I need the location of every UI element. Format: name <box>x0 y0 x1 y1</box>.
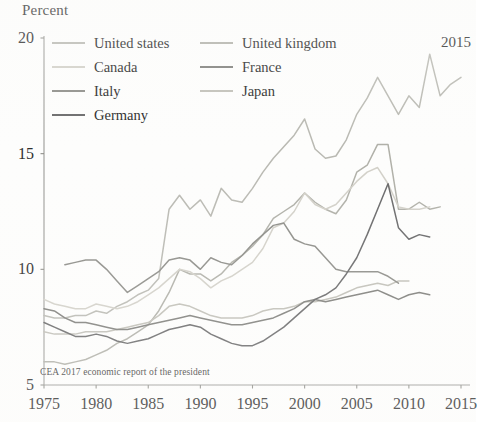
legend-swatch-icon <box>200 42 233 44</box>
legend-item-united-states: United states <box>52 31 169 55</box>
legend-swatch-icon <box>200 90 233 92</box>
legend-label: United kingdom <box>242 36 337 51</box>
legend-label: Germany <box>94 108 148 123</box>
legend-label: Canada <box>94 60 137 75</box>
legend-item-canada: Canada <box>52 55 169 79</box>
legend-swatch-icon <box>52 90 85 92</box>
source-note: CEA 2017 economic report of the presiden… <box>40 367 210 377</box>
legend-label: France <box>242 60 281 75</box>
legend-label: Japan <box>242 84 275 99</box>
legend-item-united-kingdom: United kingdom <box>200 31 337 55</box>
series-line-canada <box>44 168 430 309</box>
legend-swatch-icon <box>52 42 85 44</box>
legend-item-france: France <box>200 55 337 79</box>
legend-swatch-icon <box>52 66 85 68</box>
legend-column-left: United statesCanadaItalyGermany <box>52 31 169 127</box>
legend-item-germany: Germany <box>52 103 169 127</box>
legend-label: United states <box>94 36 169 51</box>
series-line-italy <box>65 223 399 292</box>
legend-label: Italy <box>94 84 121 99</box>
legend-item-italy: Italy <box>52 79 169 103</box>
legend-swatch-icon <box>52 114 85 116</box>
legend-column-right: United kingdomFranceJapan <box>200 31 337 103</box>
series-line-france <box>44 290 430 329</box>
legend-item-japan: Japan <box>200 79 337 103</box>
legend-swatch-icon <box>200 66 233 68</box>
